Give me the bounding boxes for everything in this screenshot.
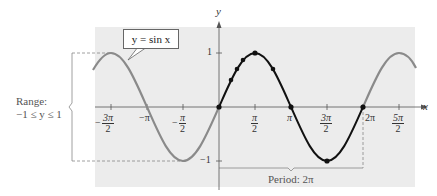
- point: [288, 104, 293, 109]
- x-tick-pi-2: π2: [251, 113, 258, 134]
- point: [360, 104, 365, 109]
- callout-text: y = sin x: [132, 33, 170, 45]
- range-title: Range:: [16, 95, 47, 107]
- x-tick-pi: π: [287, 112, 292, 123]
- point: [324, 158, 329, 163]
- point: [216, 104, 221, 109]
- point: [229, 78, 234, 83]
- range-value: −1 ≤ y ≤ 1: [16, 108, 62, 120]
- x-tick-neg-pi: −π: [139, 112, 150, 123]
- point: [271, 67, 276, 72]
- x-tick-neg-3pi-2: − 3π2: [102, 113, 114, 134]
- x-tick-3pi-2: 3π2: [320, 113, 332, 134]
- plot-svg: [0, 0, 437, 196]
- y-axis-arrow-icon: [217, 21, 222, 28]
- point: [241, 58, 246, 63]
- x-tick-2pi: 2π: [365, 112, 375, 123]
- y-tick-neg1: −1: [200, 154, 211, 165]
- curve-label-callout: y = sin x: [123, 29, 179, 49]
- point: [252, 50, 257, 55]
- y-tick-1: 1: [207, 46, 212, 57]
- callout-seam: [139, 46, 146, 48]
- sine-graph: y = sin x y x 1 −1 − 3π2 −π − π2 π2 π 3π…: [0, 0, 437, 196]
- y-axis-label: y: [216, 5, 221, 17]
- x-axis-label: x: [423, 100, 428, 112]
- range-brace: [69, 53, 72, 161]
- x-tick-neg-pi-2: − π2: [179, 113, 186, 134]
- point: [235, 67, 240, 72]
- x-tick-5pi-2: 5π2: [392, 113, 404, 134]
- period-label: Period: 2π: [268, 173, 314, 185]
